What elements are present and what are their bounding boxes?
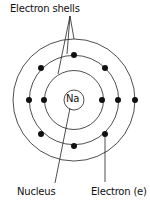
electron-shells-label: Electron shells — [10, 3, 80, 14]
electron — [99, 97, 105, 103]
electron — [38, 131, 44, 137]
electron — [41, 97, 47, 103]
electron — [38, 65, 44, 71]
nucleus-label: Nucleus — [17, 186, 55, 197]
electron — [115, 97, 121, 103]
shells-pointer-line-3 — [70, 16, 74, 39]
shells-pointer-line-1 — [58, 16, 70, 74]
electron — [132, 97, 138, 103]
nucleus-pointer-line — [55, 108, 70, 183]
electron — [26, 97, 32, 103]
electron — [102, 65, 108, 71]
electron-label: Electron (e) — [91, 186, 147, 197]
element-symbol: Na — [66, 93, 79, 104]
electron — [71, 52, 77, 58]
electron — [71, 143, 77, 149]
electron — [102, 131, 108, 137]
